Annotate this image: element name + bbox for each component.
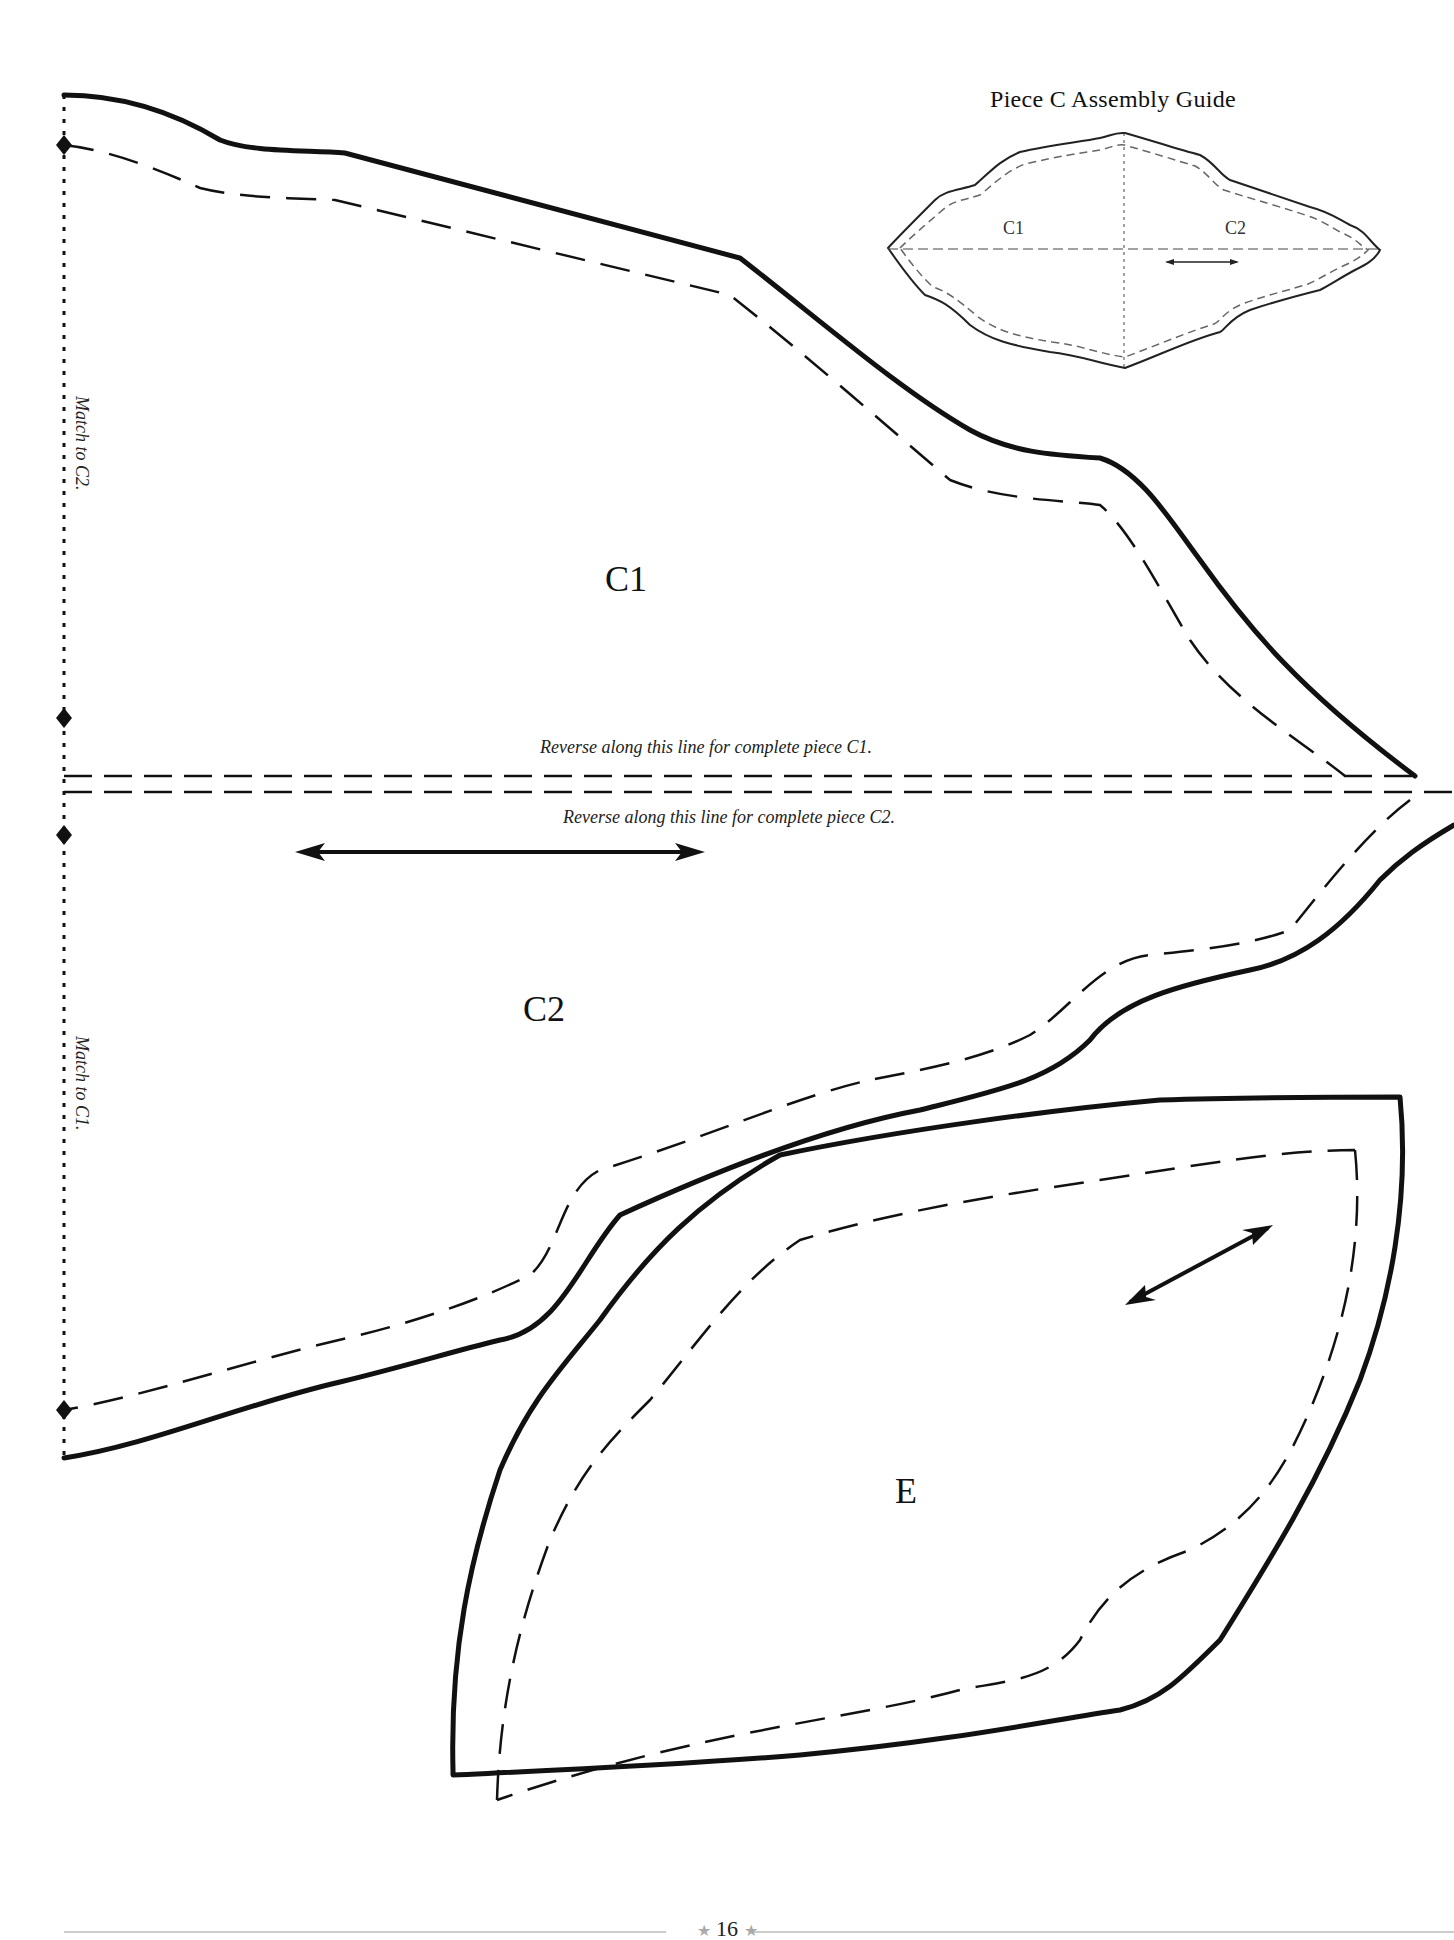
- assembly-guide-label-c2: C2: [1225, 218, 1246, 239]
- piece-label-c2: C2: [523, 988, 565, 1030]
- c2-seam-line: [64, 800, 1410, 1410]
- c1-seam-line: [64, 145, 1345, 776]
- piece-label-c1: C1: [605, 558, 647, 600]
- e-cut-line: [453, 1097, 1403, 1775]
- c1-match-note: Match to C2.: [71, 396, 92, 491]
- assembly-guide-title: Piece C Assembly Guide: [990, 86, 1236, 113]
- c2-match-note: Match to C1.: [71, 1036, 92, 1131]
- star-ornament-icon: ★: [697, 1922, 711, 1939]
- e-grainline-arrow: [1125, 1225, 1273, 1305]
- page-number: ★ 16 ★: [0, 1916, 1454, 1940]
- page-number-value: 16: [716, 1916, 738, 1940]
- match-marker-diamonds: [56, 135, 72, 1420]
- guide-grainline-arrow: [1165, 259, 1239, 265]
- c2-cut-line: [64, 825, 1454, 1458]
- piece-label-e: E: [895, 1470, 917, 1512]
- assembly-guide-label-c1: C1: [1003, 218, 1024, 239]
- star-ornament-icon: ★: [744, 1922, 758, 1939]
- c2-grainline-arrow: [295, 843, 705, 861]
- guide-cut-outline: [888, 133, 1380, 368]
- c2-reverse-note: Reverse along this line for complete pie…: [563, 807, 895, 828]
- assembly-guide-diagram: [888, 133, 1380, 368]
- pattern-sheet: [0, 0, 1454, 1940]
- c1-reverse-note: Reverse along this line for complete pie…: [540, 737, 872, 758]
